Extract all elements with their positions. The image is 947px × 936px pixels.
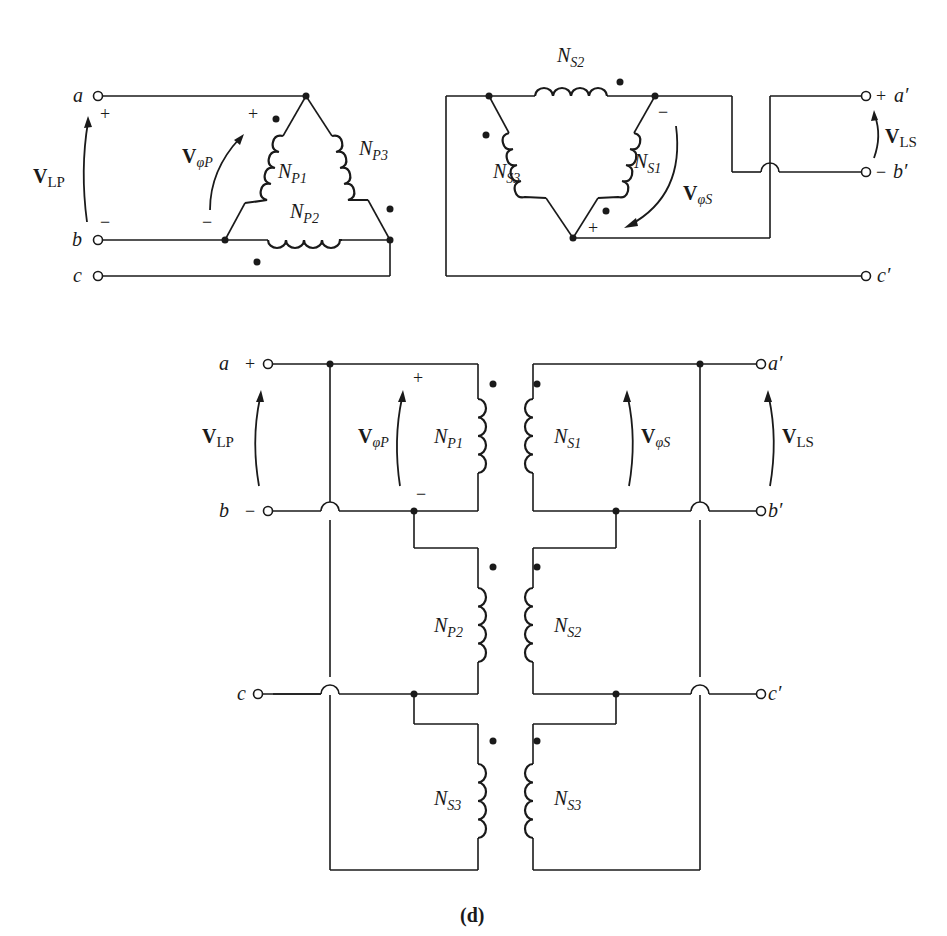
polarity-dot [273,116,280,123]
vphip-arrow [210,138,240,210]
ns2-label: NS2 [556,44,584,70]
wire-delta [634,96,655,133]
coil-ns1 [525,399,533,473]
vlp-arrow [255,398,260,486]
junction-dot [613,508,620,515]
arrow-head-icon [623,390,631,402]
wiring-diagram: a + b − c a′ b′ c′ VLP + − VφP VφS VLS N… [202,352,814,870]
wire-delta [306,96,332,136]
polarity-dot [254,259,261,266]
coil-ns2 [525,588,533,662]
np1-label: NP1 [433,425,463,451]
terminal-c-prime[interactable] [757,690,766,699]
np3-label: NP3 [358,137,388,163]
vlp-label: VLP [33,165,65,190]
polarity-dot [387,206,394,213]
terminal-c[interactable] [94,272,103,281]
vlp-arrow [84,122,88,222]
vphip-label: VφP [182,145,213,170]
wire-delta [546,198,573,238]
wire-crossover [691,502,709,511]
coil-ns3-right [525,764,533,838]
vls-arrow [874,116,878,158]
terminal-label-a: a [219,352,229,374]
primary-delta-circuit: a b c + − VLP + − VφP NP1 NP2 NP3 [33,84,394,286]
junction-dot [411,508,418,515]
terminal-label-c-prime: c′ [768,682,782,704]
coil-np1 [478,399,486,473]
terminal-label-a-prime: a′ [768,352,783,374]
terminal-a[interactable] [264,360,273,369]
coil-np2 [478,588,486,662]
plus-sign: + [245,354,255,374]
terminal-c[interactable] [254,690,263,699]
plus-sign: + [248,104,258,124]
plus-sign: + [100,104,110,124]
wire-crossover [321,502,339,511]
vlp-label: VLP [202,425,234,450]
wire-crossover [691,685,709,694]
coil-ns3-left [478,764,486,838]
terminal-label-c: c [237,682,246,704]
ns1-label: NS1 [633,150,661,176]
terminal-b[interactable] [264,507,273,516]
plus-sign: + [413,368,423,388]
polarity-dot [490,564,497,571]
minus-sign: − [245,501,255,521]
secondary-delta-circuit: + − a′ b′ c′ VLS − + VφS NS2 NS1 NS3 [446,44,917,286]
terminal-a-prime[interactable] [757,360,766,369]
minus-sign: − [202,212,212,232]
polarity-dot [490,738,497,745]
terminal-label-a: a [73,84,83,106]
terminal-label-b: b [219,499,229,521]
terminal-label-b: b [72,228,82,250]
wire-crossover [321,685,339,694]
polarity-dot [603,208,610,215]
junction-dot [387,237,394,244]
minus-sign: − [100,212,110,232]
ns3-label: NS3 [492,160,520,186]
terminal-label-c: c [73,264,82,286]
terminal-a-prime[interactable] [862,92,871,101]
polarity-dot [534,738,541,745]
delta-delta-transformer-diagram: a b c + − VLP + − VφP NP1 NP2 NP3 [0,0,947,936]
wire-delta [489,96,509,133]
junction-dot [697,361,704,368]
arrow-head-icon [624,218,638,228]
terminal-b-prime[interactable] [757,507,766,516]
arrow-head-icon [398,390,406,402]
vphis-label: VφS [683,182,712,207]
arrow-head-icon [84,116,92,128]
terminal-b[interactable] [94,236,103,245]
coil-np2 [268,240,342,248]
vphis-label: VφS [641,425,670,450]
terminal-c-prime[interactable] [862,272,871,281]
wire-delta [283,96,306,136]
np2-label: NP2 [433,614,463,640]
wire-delta [225,203,245,240]
polarity-dot [617,79,624,86]
ns2-label: NS2 [553,614,581,640]
vls-arrow [769,398,774,486]
np1-label: NP1 [277,160,307,186]
vls-label: VLS [782,425,814,450]
terminal-a[interactable] [94,92,103,101]
minus-sign: − [658,102,668,122]
vphis-arrow [628,398,633,486]
ns1-label: NS1 [553,425,581,451]
junction-dot [222,237,229,244]
wire-delta [368,200,390,240]
np2-label: NP2 [289,200,319,226]
vphip-arrow [397,398,402,486]
terminal-label-b-prime: b′ [893,160,908,182]
plus-sign: + [588,218,598,238]
plus-sign: + [876,86,886,106]
ns3-left-label: NS3 [433,787,461,813]
ns3-right-label: NS3 [553,787,581,813]
polarity-dot [483,132,490,139]
vphip-label: VφP [358,425,389,450]
junction-dot [327,361,334,368]
polarity-dot [534,564,541,571]
junction-dot [411,691,418,698]
terminal-b-prime[interactable] [862,168,871,177]
